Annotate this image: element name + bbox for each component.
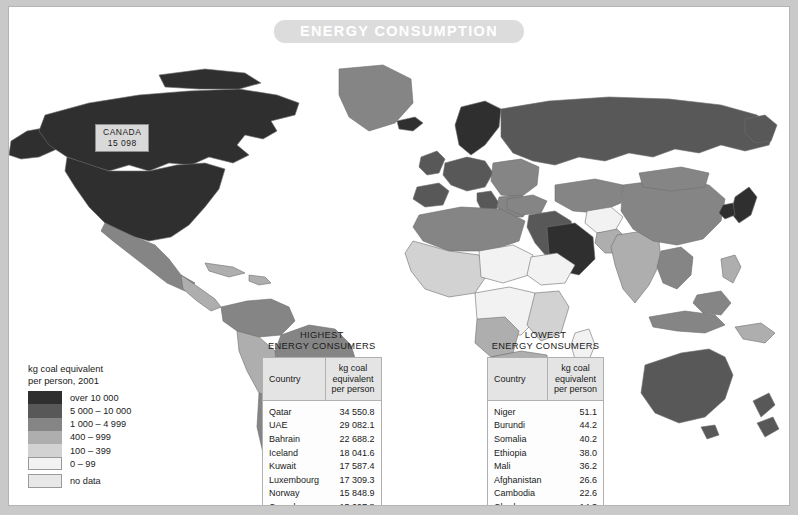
legend-swatch-3 [28,431,62,444]
legend-row-5: 0 – 99 [28,457,153,470]
canada-callout-country: CANADA [103,127,141,138]
cell-country: Afghanistan [488,474,548,488]
table-row: Somalia40.2 [488,433,604,447]
cell-value: 18 041.6 [325,446,381,460]
region-australia [641,349,733,423]
table-row: Mali36.2 [488,460,604,474]
cell-country: UAE [263,419,326,433]
legend-label-nodata: no data [70,476,101,486]
cell-value: 34 550.8 [325,400,381,419]
cell-value: 51.1 [548,400,604,419]
table-row: Cambodia22.6 [488,487,604,501]
header-value-line1: kg coal [554,363,597,374]
table-header-row: Countrykg coalequivalentper person [263,358,382,401]
legend-title-line2: per person, 2001 [28,375,153,387]
cell-country: Canada [263,501,326,506]
region-sahel [479,245,533,283]
legend-label-2: 1 000 – 4 999 [70,419,126,429]
table-row: Niger51.1 [488,400,604,419]
cell-country: Somalia [488,433,548,447]
region-mongolia [639,167,709,191]
cell-value: 38.0 [548,446,604,460]
cell-value: 26.6 [548,474,604,488]
table-row: Burundi44.2 [488,419,604,433]
legend-swatch-1 [28,404,62,417]
highest-consumers-block: HIGHESTENERGY CONSUMERSCountrykg coalequ… [262,330,382,506]
region-canada-arctic-isl [159,69,261,89]
canada-callout: CANADA 15 098 [95,124,149,152]
region-uk-ireland [419,151,445,175]
table-caption-line1: HIGHEST [262,330,382,341]
header-value-line3: per person [332,384,375,395]
lowest-consumers-block: LOWESTENERGY CONSUMERSCountrykg coalequi… [487,330,604,506]
legend-label-1: 5 000 – 10 000 [70,406,131,416]
cell-value: 36.2 [548,460,604,474]
table-caption-line1: LOWEST [487,330,604,341]
table-row: Chad14.3 [488,501,604,506]
data-table: Countrykg coalequivalentper personQatar3… [262,357,382,506]
table-header-row: Countrykg coalequivalentper person [488,358,604,401]
page-title: ENERGY CONSUMPTION [274,20,524,43]
cell-country: Norway [263,487,326,501]
legend-title: kg coal equivalent per person, 2001 [28,363,153,386]
region-japan [731,187,757,223]
legend-row-1: 5 000 – 10 000 [28,404,153,417]
legend-row-nodata: no data [28,474,153,487]
cell-value: 44.2 [548,419,604,433]
header-value-line2: equivalent [554,374,597,385]
region-central-america [181,275,221,311]
cell-country: Kuwait [263,460,326,474]
region-russia [501,97,775,165]
legend-swatch-5 [28,457,62,470]
cell-country: Qatar [263,400,326,419]
cell-value: 17 309.3 [325,474,381,488]
cell-country: Niger [488,400,548,419]
cell-country: Burundi [488,419,548,433]
legend-label-3: 400 – 999 [70,432,111,442]
cell-value: 29 082.1 [325,419,381,433]
legend-label-0: over 10 000 [70,393,119,403]
region-png [735,323,775,343]
header-value-line2: equivalent [332,374,375,385]
table-row: Luxembourg17 309.3 [263,474,382,488]
region-caribbean [249,275,271,285]
header-value-line3: per person [554,384,597,395]
legend-swatch-nodata [28,474,62,487]
map-page: ENERGY CONSUMPTION [8,6,790,506]
region-tasmania [701,425,719,439]
region-iberia [413,183,449,207]
table-row: Bahrain22 688.2 [263,433,382,447]
legend-label-5: 0 – 99 [70,459,96,469]
table-row: Qatar34 550.8 [263,400,382,419]
cell-value: 17 587.4 [325,460,381,474]
header-value-line1: kg coal [332,363,375,374]
legend-row-2: 1 000 – 4 999 [28,418,153,431]
region-borneo [693,291,731,315]
table-caption: LOWESTENERGY CONSUMERS [487,330,604,352]
legend-title-line1: kg coal equivalent [28,363,153,375]
legend-swatch-2 [28,418,62,431]
legend-row-3: 400 – 999 [28,431,153,444]
table-row: Norway15 848.9 [263,487,382,501]
cell-country: Iceland [263,446,326,460]
cell-value: 22.6 [548,487,604,501]
region-india [611,231,661,303]
table-caption-line2: ENERGY CONSUMERS [487,341,604,352]
cell-country: Chad [488,501,548,506]
cell-value: 40.2 [548,433,604,447]
cell-country: Luxembourg [263,474,326,488]
cell-country: Cambodia [488,487,548,501]
region-cuba [205,263,245,277]
table-row: UAE29 082.1 [263,419,382,433]
region-philippines [721,255,741,283]
legend-swatch-0 [28,391,62,404]
region-central-asia [555,179,623,213]
region-w-europe [443,157,493,191]
region-scandinavia [455,101,501,155]
cell-value: 22 688.2 [325,433,381,447]
region-canada [39,89,299,171]
table-caption: HIGHESTENERGY CONSUMERS [262,330,382,352]
canada-callout-value: 15 098 [103,138,141,149]
table-caption-line2: ENERGY CONSUMERS [262,341,382,352]
cell-value: 14.3 [548,501,604,506]
